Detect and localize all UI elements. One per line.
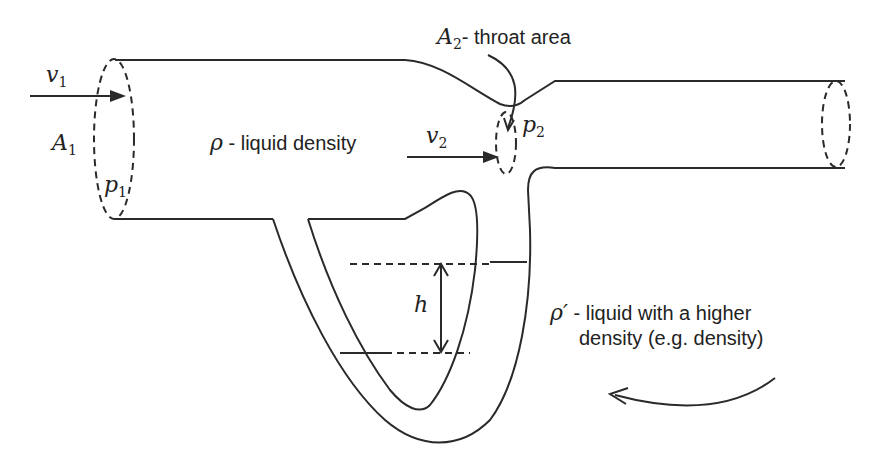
label-a1: A1 xyxy=(52,130,77,158)
outlet-section xyxy=(822,81,850,167)
label-h: h xyxy=(414,292,428,317)
label-rho-prime: ρ′ - liquid with a higher xyxy=(550,300,751,325)
diagram-drawing xyxy=(0,0,892,472)
venturi-diagram: v1 A1 p1 ρ - liquid density v2 p2 A2- th… xyxy=(0,0,892,472)
pipe-top-wall xyxy=(115,60,845,106)
label-p1: p1 xyxy=(104,172,127,200)
label-rho-prime-line2: density (e.g. density) xyxy=(579,327,764,350)
label-p2: p2 xyxy=(522,112,545,140)
flow-curve-arrow xyxy=(615,378,775,406)
v1-arrowhead xyxy=(110,90,126,102)
utube-inner xyxy=(308,191,477,410)
label-v1: v1 xyxy=(46,62,67,90)
label-rho: ρ - liquid density xyxy=(210,130,356,155)
label-v2: v2 xyxy=(426,123,447,151)
label-a2: A2- throat area xyxy=(437,24,571,52)
